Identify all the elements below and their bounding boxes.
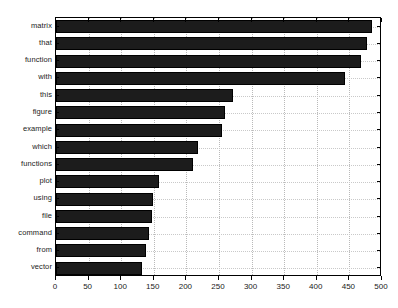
x-axis-tick-top	[218, 18, 219, 22]
y-axis-tick	[377, 26, 381, 27]
y-axis-tick-left	[55, 26, 59, 27]
x-axis-tick-top	[251, 18, 252, 22]
bar	[56, 193, 153, 206]
y-axis-label-figure: figure	[0, 108, 52, 116]
y-axis-tick	[377, 198, 381, 199]
y-axis-tick	[377, 250, 381, 251]
x-axis-tick	[348, 276, 349, 280]
x-axis-tick	[55, 276, 56, 280]
x-axis-tick	[218, 276, 219, 280]
bar	[56, 20, 372, 33]
y-axis-label-with: with	[0, 73, 52, 81]
x-axis-tick	[185, 276, 186, 280]
y-axis-tick-label: plot	[0, 177, 52, 185]
y-axis-label-functions: functions	[0, 160, 52, 168]
y-axis-tick-left	[55, 147, 59, 148]
y-axis-tick	[377, 95, 381, 96]
x-axis-tick	[120, 276, 121, 280]
y-axis-tick	[377, 233, 381, 234]
y-axis-tick-label: from	[0, 246, 52, 254]
y-axis-tick-label: command	[0, 229, 52, 237]
x-axis-tick-top	[283, 18, 284, 22]
y-axis-tick-label: using	[0, 194, 52, 202]
y-axis-tick-left	[55, 112, 59, 113]
bar	[56, 72, 345, 85]
bar	[56, 89, 233, 102]
y-axis-tick	[377, 77, 381, 78]
x-axis-tick	[251, 276, 252, 280]
y-axis-label-from: from	[0, 246, 52, 254]
bar	[56, 227, 149, 240]
y-axis-label-vector: vector	[0, 263, 52, 271]
x-axis-tick-top	[348, 18, 349, 22]
x-axis-tick	[381, 276, 382, 280]
y-axis-tick-label: functions	[0, 160, 52, 168]
plot-area	[55, 17, 381, 276]
y-axis-tick-left	[55, 198, 59, 199]
bar	[56, 141, 198, 154]
y-axis-tick-label: example	[0, 125, 52, 133]
bar	[56, 55, 361, 68]
y-axis-tick-left	[55, 95, 59, 96]
y-axis-tick-left	[55, 181, 59, 182]
y-axis-tick	[377, 181, 381, 182]
y-axis-tick-left	[55, 164, 59, 165]
bar	[56, 175, 159, 188]
y-axis-label-this: this	[0, 91, 52, 99]
y-axis-tick-left	[55, 129, 59, 130]
y-axis-tick-label: file	[0, 212, 52, 220]
y-axis-label-which: which	[0, 143, 52, 151]
y-axis-label-function: function	[0, 56, 52, 64]
y-axis-tick-label: figure	[0, 108, 52, 116]
y-axis-tick	[377, 216, 381, 217]
y-axis-tick	[377, 267, 381, 268]
y-axis-tick-label: which	[0, 143, 52, 151]
y-axis-tick	[377, 147, 381, 148]
x-axis-tick-top	[88, 18, 89, 22]
y-axis-tick-left	[55, 250, 59, 251]
y-axis-tick-label: with	[0, 73, 52, 81]
y-axis-tick	[377, 43, 381, 44]
y-axis-tick-left	[55, 60, 59, 61]
y-axis-tick	[377, 60, 381, 61]
y-axis-tick-left	[55, 267, 59, 268]
x-axis-tick-top	[120, 18, 121, 22]
y-axis-tick-label: vector	[0, 263, 52, 271]
y-axis-tick-label: that	[0, 39, 52, 47]
bar	[56, 37, 367, 50]
x-axis-tick-top	[381, 18, 382, 22]
x-axis-tick-top	[316, 18, 317, 22]
bar	[56, 262, 142, 275]
y-axis-tick	[377, 112, 381, 113]
y-axis-tick-left	[55, 77, 59, 78]
x-axis-tick	[316, 276, 317, 280]
y-axis-label-that: that	[0, 39, 52, 47]
y-axis-label-matrix: matrix	[0, 22, 52, 30]
y-axis-label-plot: plot	[0, 177, 52, 185]
y-axis-label-using: using	[0, 194, 52, 202]
bar	[56, 158, 193, 171]
bar	[56, 124, 222, 137]
x-axis-tick-top	[153, 18, 154, 22]
y-axis-tick-left	[55, 233, 59, 234]
y-axis-tick	[377, 129, 381, 130]
y-axis-tick-label: this	[0, 91, 52, 99]
y-axis-label-file: file	[0, 212, 52, 220]
bar	[56, 106, 225, 119]
x-axis-tick	[88, 276, 89, 280]
x-axis-tick-label: 500	[361, 282, 398, 291]
bar-chart-figure: 050100150200250300350400450500matrixthat…	[0, 0, 398, 308]
bar	[56, 210, 152, 223]
x-axis-tick	[153, 276, 154, 280]
y-axis-label-example: example	[0, 125, 52, 133]
x-axis-tick-top	[55, 18, 56, 22]
y-axis-tick-label: function	[0, 56, 52, 64]
bar	[56, 244, 146, 257]
y-axis-tick-left	[55, 43, 59, 44]
y-axis-tick-left	[55, 216, 59, 217]
y-axis-label-command: command	[0, 229, 52, 237]
x-axis-tick-top	[185, 18, 186, 22]
y-axis-tick-label: matrix	[0, 22, 52, 30]
x-axis-tick	[283, 276, 284, 280]
y-axis-tick	[377, 164, 381, 165]
